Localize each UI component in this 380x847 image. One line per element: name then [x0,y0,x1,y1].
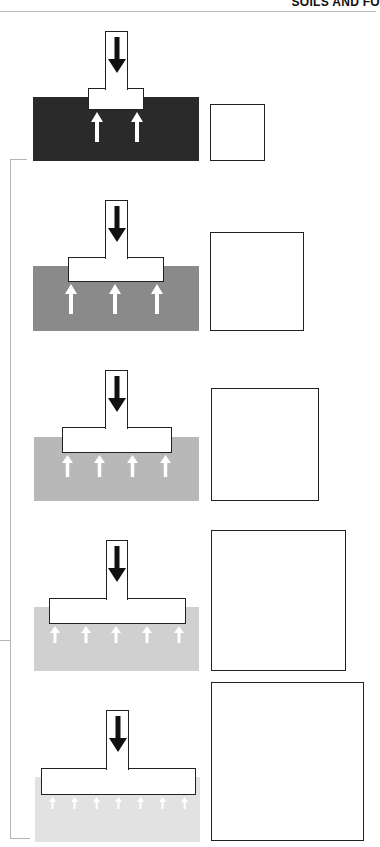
pressure-area-square [210,104,265,161]
reaction-arrow-up-icon [180,797,189,809]
reaction-arrow-up-icon [92,797,101,809]
reaction-arrow-up-icon [141,626,153,643]
pressure-area-square [211,682,364,841]
pressure-area-square [211,388,319,501]
reaction-arrow-up-icon [130,112,144,142]
reaction-arrow-up-icon [114,797,123,809]
reaction-arrow-up-icon [48,797,57,809]
reaction-arrow-up-icon [93,455,106,477]
bracket-tick [0,640,10,641]
footing-slab [62,427,172,453]
footing-slab [49,598,186,624]
reaction-arrow-up-icon [136,797,145,809]
reaction-arrow-up-icon [64,284,78,314]
load-arrow-down-icon [108,716,128,756]
reaction-arrow-up-icon [150,284,164,314]
reaction-arrow-up-icon [80,626,92,643]
load-arrow-down-icon [107,546,127,586]
reaction-arrow-up-icon [126,455,139,477]
reaction-arrow-up-icon [158,797,167,809]
footing-slab [41,768,196,795]
bracket-tick [10,159,27,160]
reaction-arrow-up-icon [159,455,172,477]
load-arrow-down-icon [107,37,127,77]
footing-slab [88,88,144,110]
page-header-title: SOILS AND FO [292,0,380,9]
reaction-arrow-up-icon [173,626,185,643]
reaction-arrow-up-icon [49,626,61,643]
footing-slab [68,257,164,282]
bracket-vertical-line [10,159,11,838]
reaction-arrow-up-icon [70,797,79,809]
pressure-area-square [210,232,304,331]
reaction-arrow-up-icon [90,112,104,142]
bracket-tick [10,838,30,839]
reaction-arrow-up-icon [110,626,122,643]
reaction-arrow-up-icon [61,455,74,477]
header-rule [0,11,376,12]
load-arrow-down-icon [107,206,127,246]
reaction-arrow-up-icon [108,284,122,314]
pressure-area-square [211,530,346,671]
load-arrow-down-icon [107,376,127,416]
